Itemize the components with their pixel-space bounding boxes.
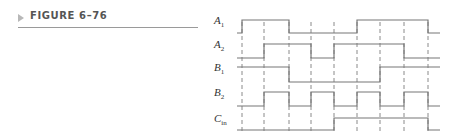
- timing-diagram: [0, 0, 464, 140]
- waveform-a1: [237, 20, 440, 33]
- waveform-cin: [237, 118, 440, 130]
- waveform-b2: [237, 92, 440, 106]
- waveform-a2: [237, 44, 440, 58]
- waveform-b1: [237, 67, 440, 82]
